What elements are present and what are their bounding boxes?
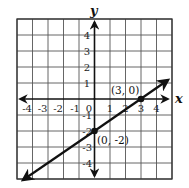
svg-text:1: 1 — [84, 78, 90, 89]
svg-text:-3: -3 — [38, 103, 48, 114]
svg-text:2: 2 — [84, 62, 90, 73]
svg-text:-4: -4 — [82, 158, 92, 169]
svg-text:3: 3 — [84, 46, 90, 57]
svg-text:-2: -2 — [53, 103, 63, 114]
x-axis-label: x — [174, 91, 183, 106]
svg-text:-1: -1 — [70, 103, 80, 114]
svg-text:4: 4 — [153, 103, 159, 114]
svg-text:-1: -1 — [82, 110, 92, 121]
graph-line — [23, 131, 95, 180]
svg-text:1: 1 — [107, 103, 113, 114]
svg-text:-3: -3 — [82, 142, 92, 153]
svg-text:-4: -4 — [22, 103, 32, 114]
svg-text:3: 3 — [138, 103, 144, 114]
svg-text:4: 4 — [84, 30, 90, 41]
point-label-0-neg2: (0, -2) — [97, 134, 129, 146]
y-axis-label: y — [89, 3, 99, 18]
coordinate-plane: x y -4 -3 -2 -1 0 1 2 3 4 4 3 2 1 -1 -2 … — [0, 0, 189, 188]
point-label-3-0: (3, 0) — [111, 84, 139, 96]
point-3-0 — [138, 96, 145, 103]
